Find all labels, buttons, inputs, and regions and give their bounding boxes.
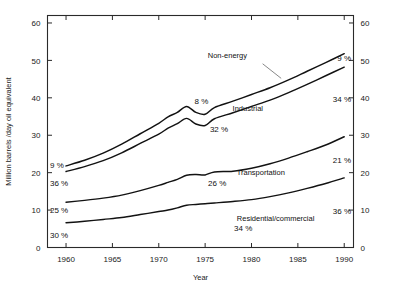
inner-percent-label: 8 % <box>195 97 209 106</box>
left-percent-label: 25 % <box>50 206 68 215</box>
inner-percent-label: 34 % <box>234 224 252 233</box>
y-tick-label-left: 10 <box>32 206 41 215</box>
x-tick-label: 1975 <box>196 255 214 264</box>
right-percent-label: 36 % <box>333 207 351 216</box>
y-tick-label-left: 30 <box>32 131 41 140</box>
right-percent-label: 9 % <box>337 54 351 63</box>
inner-percent-label: 26 % <box>208 179 226 188</box>
x-tick-label: 1970 <box>150 255 168 264</box>
x-tick-label: 1990 <box>335 255 353 264</box>
y-tick-label-left: 20 <box>32 169 41 178</box>
y-tick-label-right: 40 <box>361 94 370 103</box>
series-label-transportation: Transportation <box>237 168 285 177</box>
left-percent-label: 30 % <box>50 231 68 240</box>
y-tick-label-left: 50 <box>32 57 41 66</box>
left-percent-label: 36 % <box>50 179 68 188</box>
y-tick-label-right: 0 <box>361 244 366 253</box>
y-tick-label-right: 30 <box>361 131 370 140</box>
y-tick-label-right: 60 <box>361 19 370 28</box>
y-tick-label-right: 10 <box>361 206 370 215</box>
x-tick-label: 1965 <box>104 255 122 264</box>
energy-demand-line-chart: 1960196519701975198019851990 01020304050… <box>0 0 402 287</box>
series-label-non-energy: Non-energy <box>208 51 247 60</box>
y-tick-label-left: 60 <box>32 19 41 28</box>
y-tick-label-left: 40 <box>32 94 41 103</box>
left-percent-label: 9 % <box>50 161 64 170</box>
right-percent-label: 21 % <box>333 156 351 165</box>
y-tick-label-right: 20 <box>361 169 370 178</box>
x-tick-label: 1960 <box>57 255 75 264</box>
right-percent-label: 34 % <box>333 95 351 104</box>
x-axis-title: Year <box>193 273 209 282</box>
inner-percent-label: 32 % <box>210 125 228 134</box>
x-tick-label: 1985 <box>289 255 307 264</box>
chart-background <box>0 0 402 287</box>
series-label-residential-commercial: Residential/commercial <box>237 214 315 223</box>
x-tick-label: 1980 <box>243 255 261 264</box>
y-tick-label-right: 50 <box>361 57 370 66</box>
series-label-industrial: Industrial <box>233 104 264 113</box>
y-tick-label-left: 0 <box>36 244 41 253</box>
y-axis-title: Million barrels /day oil equivalent <box>4 76 13 185</box>
chart-container: 1960196519701975198019851990 01020304050… <box>0 0 402 287</box>
